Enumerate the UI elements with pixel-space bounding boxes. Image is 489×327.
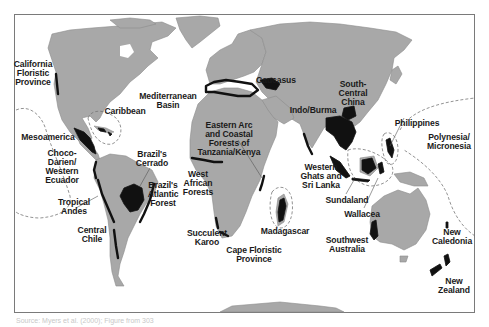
hotspot-new-zealand <box>430 254 450 276</box>
landmass-australia <box>370 188 430 250</box>
label-mediterranean: Mediterranean Basin <box>130 92 206 110</box>
label-indo-burma: Indo/Burma <box>282 106 344 115</box>
landmass-antarctica <box>220 302 344 312</box>
label-west-african: West African Forests <box>176 170 220 197</box>
label-caucasus: Caucasus <box>250 76 302 85</box>
label-tropical-andes: Tropical Andes <box>50 198 98 216</box>
label-california: California Floristic Province <box>2 60 64 87</box>
landmass-new-guinea <box>394 172 428 186</box>
label-sundaland: Sundaland <box>318 196 376 205</box>
label-southwest-australia: Southwest Australia <box>320 236 374 254</box>
label-mesoamerica: Mesoamerica <box>14 133 82 142</box>
label-eastern-arc: Eastern Arc and Coastal Forests of Tanza… <box>190 121 268 157</box>
landmass-south-america <box>94 154 158 286</box>
label-cape-floristic: Cape Floristic Province <box>216 246 292 264</box>
label-choco: Choco- Darien/ Western Ecuador <box>38 149 86 185</box>
figure-caption: Source: Myers et al. (2000); Figure from… <box>16 317 154 324</box>
label-south-central-china: South- Central China <box>332 80 374 107</box>
label-cerrado: Brazil's Cerrado <box>128 150 176 168</box>
label-central-chile: Central Chile <box>70 226 114 244</box>
label-new-caledonia: New Caledonia <box>426 228 478 246</box>
landmass-greenland <box>176 16 220 48</box>
landmass-tasmania <box>400 256 408 262</box>
label-philippines: Philippines <box>386 119 448 128</box>
landmass-africa <box>190 88 278 238</box>
label-madagascar: Madagascar <box>254 227 316 236</box>
label-western-ghats: Western Ghats and Sri Lanka <box>294 163 348 190</box>
landmass-north-america <box>48 22 176 144</box>
label-wallacea: Wallacea <box>336 210 388 219</box>
label-polynesia: Polynesia/ Micronesia <box>418 133 480 151</box>
label-new-zealand: New Zealand <box>432 277 476 295</box>
